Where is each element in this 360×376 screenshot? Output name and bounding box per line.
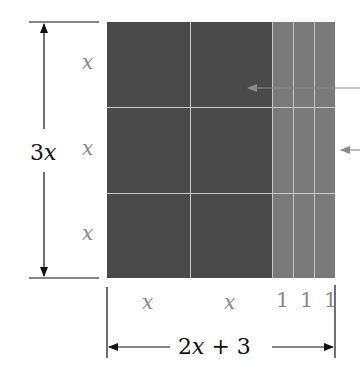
height-var: x [44, 140, 56, 165]
unit-labels: 1 1 1 [276, 288, 339, 312]
height-coef: 3 [30, 140, 44, 165]
width-const: 3 [237, 334, 251, 359]
column-label-1: x [142, 290, 153, 314]
row-label-1: x [82, 50, 93, 74]
width-plus: + [211, 334, 229, 359]
width-label: 2x + 3 [178, 334, 251, 359]
height-label: 3x [30, 140, 56, 165]
dimension-lines [0, 0, 360, 376]
column-label-2: x [224, 290, 235, 314]
row-label-2: x [82, 136, 93, 160]
width-coef: 2 [178, 334, 192, 359]
row-label-3: x [82, 221, 93, 245]
width-var: x [192, 334, 204, 359]
